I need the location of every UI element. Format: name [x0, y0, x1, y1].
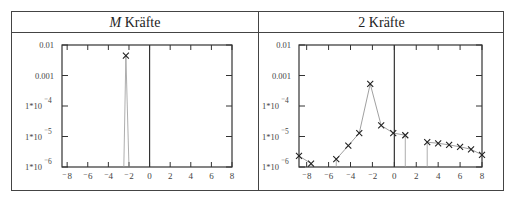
x-tick-label: ⁻2 [124, 171, 134, 181]
y-tick-label: 1*10 [262, 162, 279, 172]
data-point-marker [345, 143, 351, 149]
x-tick-label: 2 [168, 171, 173, 181]
plot-frame [299, 45, 482, 167]
x-tick-label: ⁻8 [62, 171, 72, 181]
chart-m-kraefte: ⁻8⁻6⁻4⁻2024680.010.0011*10⁻41*10⁻51*10⁻6 [25, 40, 235, 181]
x-tick-label: 6 [209, 171, 214, 181]
x-tick-label: ⁻6 [324, 171, 334, 181]
x-tick-label: 4 [189, 171, 194, 181]
data-point-marker [378, 122, 384, 128]
x-tick-label: 8 [230, 171, 235, 181]
y-tick-label: 1*10 [25, 101, 42, 111]
svg-text:⁻4: ⁻4 [281, 96, 289, 105]
svg-text:⁻6: ⁻6 [44, 157, 52, 166]
y-tick-label: 1*10 [262, 101, 279, 111]
x-tick-label: 4 [436, 171, 441, 181]
y-tick-label: 0.01 [39, 40, 54, 50]
x-tick-label: ⁻6 [83, 171, 93, 181]
svg-text:⁻5: ⁻5 [281, 127, 289, 136]
svg-text:⁻5: ⁻5 [44, 127, 52, 136]
data-point-marker [356, 130, 362, 136]
x-tick-label: 6 [458, 171, 463, 181]
y-tick-label: 0.001 [272, 71, 291, 81]
data-point-marker [468, 146, 474, 152]
y-tick-label: 0.01 [276, 40, 291, 50]
y-tick-label: 0.001 [35, 71, 54, 81]
x-tick-label: ⁻8 [302, 171, 312, 181]
svg-text:⁻6: ⁻6 [281, 157, 289, 166]
x-tick-label: 0 [392, 171, 397, 181]
x-tick-label: 2 [414, 171, 419, 181]
y-tick-label: 1*10 [25, 132, 42, 142]
plot-frame [62, 45, 232, 167]
y-tick-label: 1*10 [25, 162, 42, 172]
svg-text:⁻4: ⁻4 [44, 96, 52, 105]
plots-canvas: ⁻8⁻6⁻4⁻2024680.010.0011*10⁻41*10⁻51*10⁻6… [0, 0, 517, 198]
chart-2-kraefte: ⁻8⁻6⁻4⁻2024680.010.0011*10⁻41*10⁻51*10⁻6 [262, 40, 485, 181]
x-tick-label: 8 [480, 171, 485, 181]
data-point-marker [367, 81, 373, 87]
series-line [427, 142, 482, 155]
x-tick-label: ⁻4 [346, 171, 356, 181]
x-tick-label: ⁻4 [104, 171, 114, 181]
x-tick-label: 0 [147, 171, 152, 181]
x-tick-label: ⁻2 [368, 171, 378, 181]
y-tick-label: 1*10 [262, 132, 279, 142]
